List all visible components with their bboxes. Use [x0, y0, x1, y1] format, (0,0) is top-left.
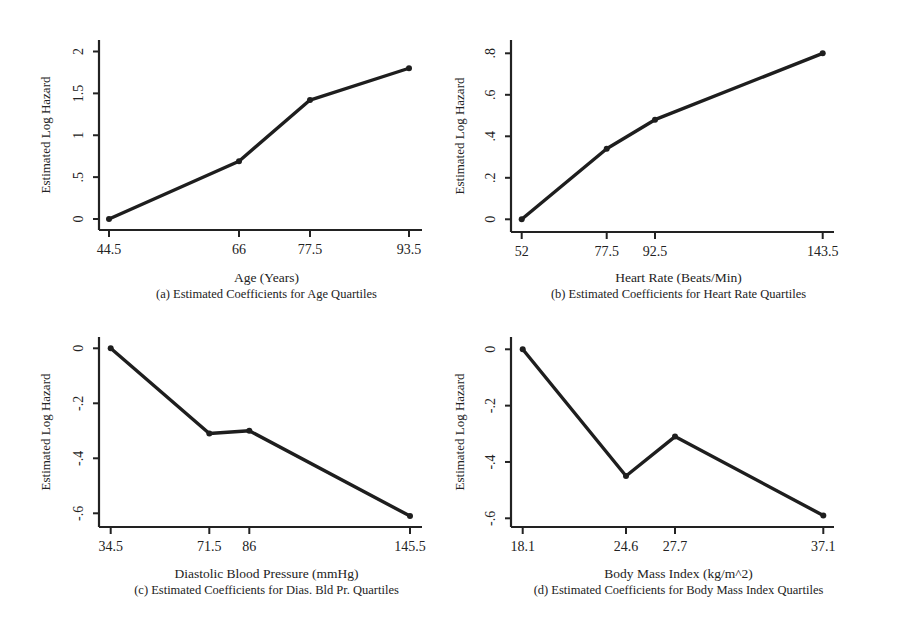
panel-a: 0.511.5244.56677.593.5Estimated Log Haza…	[38, 40, 422, 301]
y-tick-label: 0	[71, 345, 86, 352]
data-point-marker	[604, 146, 610, 152]
data-point-marker	[820, 512, 826, 518]
panel-caption: (c) Estimated Coefficients for Dias. Bld…	[134, 583, 399, 597]
y-tick-label: .2	[483, 173, 498, 184]
x-tick-label: 27.7	[663, 539, 688, 554]
data-series-line	[111, 348, 410, 516]
x-axis-title: Heart Rate (Beats/Min)	[615, 270, 742, 285]
data-point-marker	[206, 431, 212, 437]
panel-d: 0-.2-.4-.618.124.627.737.1Estimated Log …	[452, 337, 836, 597]
data-point-marker	[820, 50, 826, 56]
x-tick-label: 77.5	[594, 244, 619, 259]
panel-c: 0-.2-.4-.634.571.586145.5Estimated Log H…	[38, 337, 426, 597]
data-series-line	[523, 349, 824, 515]
data-series-line	[109, 68, 409, 219]
x-tick-label: 44.5	[97, 242, 122, 257]
y-tick-label: .4	[483, 131, 498, 142]
x-tick-label: 145.5	[394, 539, 426, 554]
y-tick-label: -.6	[71, 506, 86, 521]
y-tick-label: -.4	[483, 454, 498, 469]
y-axis-title: Estimated Log Hazard	[38, 373, 53, 490]
y-tick-label: 0	[483, 346, 498, 353]
x-tick-label: 93.5	[397, 242, 422, 257]
y-tick-label: 2	[71, 48, 86, 55]
x-tick-label: 24.6	[614, 539, 639, 554]
data-point-marker	[406, 65, 412, 71]
panel-caption: (d) Estimated Coefficients for Body Mass…	[534, 583, 824, 597]
data-series-line	[522, 53, 823, 219]
y-tick-label: 1	[71, 132, 86, 139]
panel-b: 0.2.4.6.85277.592.5143.5Estimated Log Ha…	[452, 40, 838, 301]
figure-panels: 0.511.5244.56677.593.5Estimated Log Haza…	[0, 0, 898, 630]
x-axis-title: Diastolic Blood Pressure (mmHg)	[174, 566, 358, 581]
y-tick-label: .6	[483, 90, 498, 101]
y-axis-title: Estimated Log Hazard	[452, 77, 467, 194]
data-point-marker	[407, 513, 413, 519]
y-axis-title: Estimated Log Hazard	[38, 76, 53, 193]
x-tick-label: 86	[242, 539, 256, 554]
y-tick-label: -.2	[71, 396, 86, 411]
x-tick-label: 77.5	[298, 242, 323, 257]
data-point-marker	[652, 117, 658, 123]
data-point-marker	[236, 158, 242, 164]
y-tick-label: .5	[71, 172, 86, 183]
y-tick-label: 0	[483, 216, 498, 223]
y-tick-label: -.4	[71, 451, 86, 466]
data-point-marker	[623, 473, 629, 479]
data-point-marker	[108, 345, 114, 351]
panel-caption: (a) Estimated Coefficients for Age Quart…	[156, 287, 377, 301]
x-tick-label: 18.1	[510, 539, 535, 554]
data-point-marker	[307, 97, 313, 103]
data-point-marker	[246, 428, 252, 434]
data-point-marker	[519, 216, 525, 222]
y-tick-label: -.2	[483, 398, 498, 413]
x-axis-title: Body Mass Index (kg/m^2)	[604, 566, 752, 581]
x-tick-label: 143.5	[807, 244, 839, 259]
x-tick-label: 52	[515, 244, 529, 259]
y-axis-title: Estimated Log Hazard	[452, 373, 467, 490]
x-tick-label: 37.1	[811, 539, 836, 554]
data-point-marker	[520, 346, 526, 352]
y-tick-label: 0	[71, 216, 86, 223]
data-point-marker	[106, 216, 112, 222]
y-tick-label: .8	[483, 48, 498, 59]
x-tick-label: 66	[232, 242, 246, 257]
x-tick-label: 34.5	[98, 539, 123, 554]
x-tick-label: 92.5	[643, 244, 668, 259]
y-tick-label: -.6	[483, 511, 498, 526]
x-tick-label: 71.5	[197, 539, 222, 554]
x-axis-title: Age (Years)	[234, 270, 299, 285]
y-tick-label: 1.5	[71, 85, 86, 103]
panel-caption: (b) Estimated Coefficients for Heart Rat…	[551, 287, 806, 301]
data-point-marker	[672, 434, 678, 440]
